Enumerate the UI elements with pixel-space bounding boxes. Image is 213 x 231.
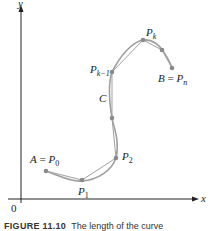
point-between	[160, 48, 165, 53]
approximating-polygon	[46, 40, 172, 180]
caption-text: The length of the curve	[71, 221, 163, 231]
label-p2-sym: P	[122, 150, 129, 162]
label-p2-sub: 2	[129, 156, 133, 165]
point-pk	[141, 38, 146, 43]
label-pk: Pk	[146, 26, 156, 41]
label-pk-sub: k	[153, 32, 157, 41]
label-p1: P1	[78, 185, 89, 200]
x-axis-arrow-icon	[192, 197, 199, 202]
point-b	[170, 66, 175, 71]
point-p1	[80, 178, 85, 183]
label-p1-sub: 1	[85, 191, 89, 200]
label-a-sub: 0	[55, 159, 59, 168]
label-p2: P2	[122, 150, 133, 165]
caption-label: FIGURE 11.10	[4, 221, 66, 231]
y-axis-label: y	[18, 0, 23, 9]
figure-canvas	[0, 0, 213, 231]
x-axis-label: x	[201, 192, 206, 204]
point-mid	[110, 116, 115, 121]
point-a	[44, 169, 49, 174]
label-pk-minus-1-sym: P	[90, 63, 97, 75]
curve-c	[46, 40, 172, 181]
label-pk-minus-1-sub: k−1	[97, 69, 110, 78]
figure-caption: FIGURE 11.10 The length of the curve	[4, 221, 163, 231]
label-a-p0: A = P0	[30, 153, 59, 168]
curve-label: C	[99, 92, 106, 104]
label-b-pn: B = Pn	[158, 72, 187, 87]
label-b-sub: n	[183, 78, 187, 87]
point-p2	[114, 156, 119, 161]
point-pk-minus-1	[110, 70, 115, 75]
label-a-name: A	[30, 153, 37, 165]
label-a-eq: =	[39, 153, 45, 165]
origin-label: 0	[11, 202, 17, 214]
label-b-name: B	[158, 72, 165, 84]
label-b-eq: =	[167, 72, 173, 84]
label-p1-sym: P	[78, 185, 85, 197]
label-pk-sym: P	[146, 26, 153, 38]
label-pk-minus-1: Pk−1	[90, 63, 110, 78]
